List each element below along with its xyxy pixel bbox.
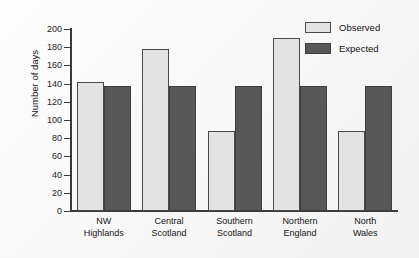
y-tick-label: 20 bbox=[0, 189, 62, 198]
x-axis-category-label: NorthWales bbox=[320, 216, 410, 239]
y-tick-label: 60 bbox=[0, 152, 62, 161]
bar-observed bbox=[142, 49, 169, 211]
bar-expected bbox=[235, 86, 262, 211]
y-tick-label: 120 bbox=[0, 98, 62, 107]
bar-observed bbox=[338, 131, 365, 211]
y-tick-label: 180 bbox=[0, 43, 62, 52]
legend-swatch-expected-icon bbox=[305, 43, 331, 54]
y-tick-label: 80 bbox=[0, 134, 62, 143]
x-axis-category-line: Wales bbox=[320, 228, 410, 240]
bar-expected bbox=[169, 86, 196, 211]
chart-legend: Observed Expected bbox=[305, 20, 380, 62]
legend-label-observed: Observed bbox=[339, 22, 380, 33]
y-tick-label: 200 bbox=[0, 25, 62, 34]
legend-label-expected: Expected bbox=[339, 43, 379, 54]
bar-observed bbox=[273, 38, 300, 211]
legend-swatch-observed-icon bbox=[305, 22, 331, 33]
y-tick-label: 140 bbox=[0, 80, 62, 89]
bar-observed bbox=[77, 82, 104, 211]
bar-chart: Number of days 2001801601401201008060402… bbox=[0, 0, 419, 258]
legend-item-observed: Observed bbox=[305, 20, 380, 34]
bar-expected bbox=[104, 86, 131, 211]
y-tick-label: 160 bbox=[0, 61, 62, 70]
bar-expected bbox=[365, 86, 392, 211]
legend-item-expected: Expected bbox=[305, 41, 380, 55]
y-tick-label: 0 bbox=[0, 207, 62, 216]
x-axis-category-line: North bbox=[320, 216, 410, 228]
y-tick-label: 100 bbox=[0, 116, 62, 125]
bar-expected bbox=[300, 86, 327, 211]
bar-observed bbox=[208, 131, 235, 211]
y-tick-label: 40 bbox=[0, 171, 62, 180]
